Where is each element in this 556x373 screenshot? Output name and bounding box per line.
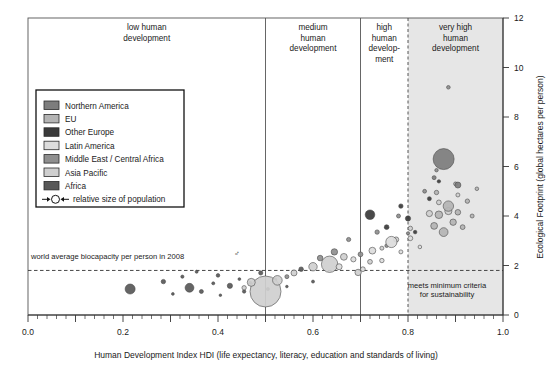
x-tick-label: 0.8: [402, 327, 414, 337]
bubble: [455, 209, 461, 215]
legend-label-2: Other Europe: [65, 128, 115, 137]
x-tick-label: 0.4: [212, 327, 224, 337]
bubble: [365, 210, 375, 220]
bubble: [351, 257, 356, 262]
bubble: [427, 197, 431, 201]
legend-swatch-4: [44, 155, 59, 164]
bubble: [450, 219, 456, 225]
bubble: [435, 169, 438, 172]
bubble: [358, 252, 363, 257]
bubble: [285, 275, 289, 279]
bubble: [380, 258, 384, 262]
bubble: [317, 255, 323, 261]
bubble: [406, 232, 409, 235]
legend-swatch-3: [44, 141, 59, 150]
bubble: [375, 230, 379, 234]
legend-label-1: EU: [65, 115, 76, 124]
bubble: [384, 225, 389, 230]
bubble: [171, 293, 174, 296]
bubble: [247, 278, 255, 286]
legend-swatch-0: [44, 101, 59, 110]
bubble: [219, 294, 222, 297]
bubble: [408, 226, 412, 230]
bubble: [242, 290, 245, 293]
bubble: [475, 187, 479, 191]
band-label-2: human: [372, 34, 397, 43]
bubble: [434, 190, 438, 194]
legend-swatch-5: [44, 168, 59, 177]
y-axis-title: Ecological Footprint (global hectares pe…: [535, 75, 545, 258]
bubble: [431, 223, 438, 230]
bubble: [286, 285, 289, 288]
bubble: [443, 201, 453, 211]
ecological-footprint-hdi-chart: low humandevelopmentmediumhumandevelopme…: [0, 0, 556, 373]
legend-swatch-1: [44, 114, 59, 123]
bubble: [195, 270, 198, 273]
size-key-label: relative size of population: [73, 195, 166, 204]
bubble: [181, 275, 184, 278]
band-label-1: human: [300, 34, 325, 43]
bubble: [368, 259, 373, 264]
bubble: [369, 247, 376, 254]
bubble: [405, 216, 410, 221]
bubble: [470, 214, 474, 218]
bubble: [309, 263, 317, 271]
band-label-0: development: [123, 34, 171, 43]
y-tick-label: 6: [514, 162, 519, 172]
biocapacity-annotation: world average biocapacity per person in …: [30, 252, 184, 261]
bubble: [216, 274, 220, 278]
legend-label-5: Asia Pacific: [65, 169, 107, 178]
legend-label-4: Middle East / Central Africa: [65, 155, 164, 164]
bubble: [435, 211, 443, 219]
legend-swatch-2: [44, 128, 59, 137]
chart-canvas: low humandevelopmentmediumhumandevelopme…: [0, 0, 556, 373]
sustainability-annotation-line1: meets minimum criteria: [408, 281, 487, 290]
legend-label-3: Latin America: [65, 142, 115, 151]
x-tick-label: 0.2: [117, 327, 129, 337]
band-label-1: development: [290, 44, 338, 53]
bubble: [413, 230, 417, 234]
legend: Northern AmericaEUOther EuropeLatin Amer…: [36, 90, 184, 207]
bubble: [291, 270, 297, 276]
legend-label-6: Africa: [65, 182, 86, 191]
bubble: [238, 278, 241, 281]
x-tick-label: 0.6: [307, 327, 319, 337]
bubble: [456, 193, 460, 197]
bubble: [360, 267, 365, 272]
bubble: [321, 256, 337, 272]
bubble: [185, 283, 194, 292]
bubble: [259, 271, 263, 275]
bubble: [331, 249, 337, 255]
bubble: [397, 214, 401, 218]
bubble: [418, 245, 422, 249]
bubble: [380, 246, 384, 250]
bubble: [436, 200, 441, 205]
bubble: [455, 182, 461, 188]
bubble: [125, 284, 135, 294]
bubble: [460, 225, 465, 230]
bubble: [347, 237, 351, 241]
bubble: [447, 86, 451, 90]
bubble: [242, 286, 246, 290]
y-tick-label: 4: [514, 211, 519, 221]
band-label-2: ment: [375, 55, 394, 64]
band-label-3: very high: [439, 23, 473, 32]
bubble: [340, 253, 347, 260]
bubble: [399, 250, 403, 254]
legend-swatch-6: [44, 181, 59, 190]
band-label-3: human: [443, 34, 468, 43]
bubble: [336, 264, 342, 270]
bubble: [212, 282, 215, 285]
bubble: [199, 289, 203, 293]
bubble: [432, 176, 436, 180]
bubble: [299, 267, 304, 272]
bubble: [433, 149, 454, 170]
y-tick-label: 2: [514, 261, 519, 271]
size-key-circle: [52, 195, 60, 203]
bubble: [423, 189, 427, 193]
x-tick-label: 1.0: [497, 327, 509, 337]
band-label-2: high: [377, 23, 393, 32]
bubble: [161, 279, 165, 283]
legend-label-0: Northern America: [65, 102, 129, 111]
bubble: [399, 204, 403, 208]
